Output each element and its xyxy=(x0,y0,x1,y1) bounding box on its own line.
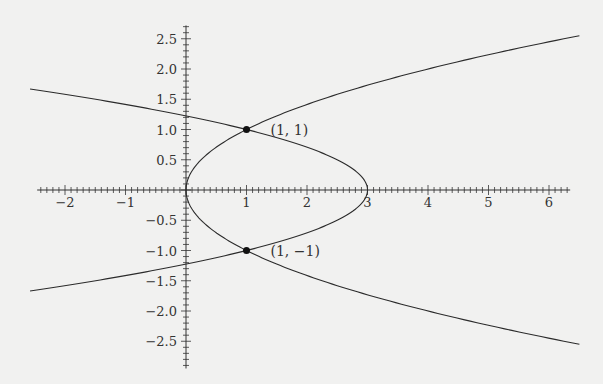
chart-plot: −2−11234562.52.01.51.00.5−0.5−1.0−1.5−2.… xyxy=(0,0,603,384)
x-tick-label: −1 xyxy=(116,195,135,210)
intersection-point xyxy=(243,126,250,133)
x-tick-label: 5 xyxy=(484,195,492,210)
y-tick-label: −0.5 xyxy=(145,213,177,228)
x-tick-label: 4 xyxy=(424,195,432,210)
x-tick-label: 3 xyxy=(363,195,371,210)
y-tick-label: 1.5 xyxy=(156,92,177,107)
y-tick-label: 0.5 xyxy=(156,153,177,168)
y-tick-label: 2.0 xyxy=(156,62,177,77)
intersection-point xyxy=(243,247,250,254)
y-tick-label: −2.0 xyxy=(145,304,177,319)
y-tick-label: 1.0 xyxy=(156,123,177,138)
point-label: (1, −1) xyxy=(271,243,320,259)
x-tick-label: 6 xyxy=(545,195,553,210)
y-tick-label: −1.5 xyxy=(145,274,177,289)
x-tick-label: 2 xyxy=(303,195,311,210)
axes: −2−11234562.52.01.51.00.5−0.5−1.0−1.5−2.… xyxy=(37,25,570,368)
y-tick-label: −2.5 xyxy=(145,334,177,349)
x-tick-label: 1 xyxy=(242,195,250,210)
point-label: (1, 1) xyxy=(271,122,309,138)
y-tick-label: 2.5 xyxy=(156,32,177,47)
x-tick-label: −2 xyxy=(55,195,74,210)
y-tick-label: −1.0 xyxy=(145,244,177,259)
